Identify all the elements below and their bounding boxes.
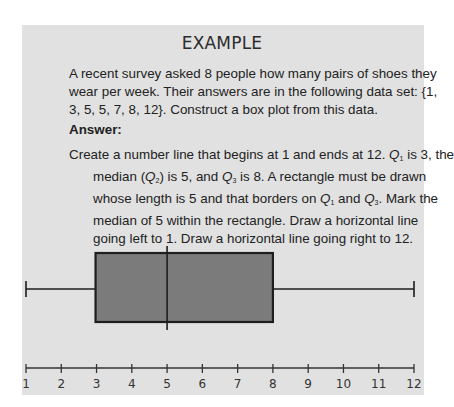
number-line: 123456789101112	[22, 364, 421, 391]
tick-label: 9	[304, 377, 312, 391]
tick-label: 3	[93, 377, 101, 391]
box-plot-figure	[26, 246, 414, 330]
tick-label: 1	[22, 377, 30, 391]
tick-label: 5	[163, 377, 171, 391]
tick-label: 7	[234, 377, 242, 391]
tick-label: 11	[371, 377, 386, 391]
tick-label: 8	[269, 377, 277, 391]
iqr-box	[96, 253, 273, 322]
tick-label: 4	[128, 377, 136, 391]
tick-label: 12	[406, 377, 421, 391]
tick-label: 10	[336, 377, 351, 391]
tick-label: 2	[57, 377, 65, 391]
tick-label: 6	[199, 377, 207, 391]
